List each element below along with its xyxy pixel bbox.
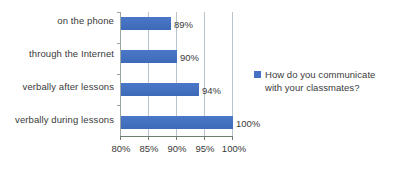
legend-item[interactable]: How do you communicate with your classma… [254,68,394,94]
bar-verbally-after-lessons[interactable] [121,83,199,96]
data-label-on-the-phone: 89% [174,19,193,30]
x-tick-95 [204,136,205,140]
data-label-verbally-during-lessons: 100% [236,118,260,129]
category-label-verbally-after-lessons: verbally after lessons [0,81,114,92]
category-label-verbally-during-lessons: verbally during lessons [0,114,114,125]
bar-verbally-during-lessons[interactable] [121,116,233,129]
x-tick-100 [232,136,233,140]
x-tick-85 [148,136,149,140]
legend-swatch-icon [254,71,261,78]
category-label-through-the-internet: through the Internet [0,48,114,59]
bar-on-the-phone[interactable] [121,17,171,30]
x-tick-90 [176,136,177,140]
category-label-on-the-phone: on the phone [0,15,114,26]
x-tick-80 [120,136,121,140]
category-axis-labels: on the phone through the Internet verbal… [0,12,118,136]
bar-chart: on the phone through the Internet verbal… [0,0,397,169]
x-tick-label-80: 80% [111,143,130,155]
x-tick-label-100: 100% [222,143,246,155]
data-label-verbally-after-lessons: 94% [202,85,221,96]
legend[interactable]: How do you communicate with your classma… [254,68,394,94]
x-tick-label-85: 85% [139,143,158,155]
legend-label-line1: How do you communicate [265,68,375,81]
x-tick-label-95: 95% [195,143,214,155]
data-label-through-the-internet: 90% [180,52,199,63]
x-tick-label-90: 90% [167,143,186,155]
legend-label: How do you communicate with your classma… [265,68,375,94]
legend-label-line2: with your classmates? [265,81,375,94]
plot-area [120,12,232,136]
bar-through-the-internet[interactable] [121,50,177,63]
